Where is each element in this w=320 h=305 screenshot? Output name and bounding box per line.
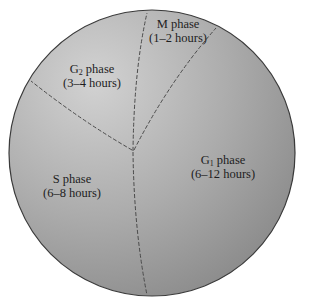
- phase-word: phase: [63, 172, 91, 186]
- phase-word: phase: [86, 62, 114, 76]
- phase-duration: (6–12 hours): [180, 167, 266, 181]
- label-m-phase: M phase (1–2 hours): [142, 17, 214, 45]
- label-g2-phase: G2 phase (3–4 hours): [56, 62, 128, 90]
- phase-name: G: [201, 153, 210, 167]
- phase-word: phase: [171, 17, 199, 31]
- phase-name: G: [70, 62, 79, 76]
- phase-duration: (1–2 hours): [142, 31, 214, 45]
- phase-duration: (3–4 hours): [56, 76, 128, 90]
- phase-duration: (6–8 hours): [36, 186, 108, 200]
- phase-name: M: [157, 17, 168, 31]
- phase-name: S: [53, 172, 60, 186]
- label-g1-phase: G1 phase (6–12 hours): [180, 153, 266, 181]
- phase-word: phase: [217, 153, 245, 167]
- label-s-phase: S phase (6–8 hours): [36, 172, 108, 200]
